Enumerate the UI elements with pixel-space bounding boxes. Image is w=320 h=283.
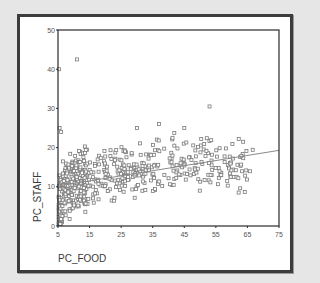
data-point: [228, 172, 231, 175]
data-point: [73, 186, 76, 189]
data-point: [158, 180, 161, 183]
data-point: [117, 178, 120, 181]
data-point: [93, 164, 96, 167]
data-point: [106, 190, 109, 193]
data-point: [150, 154, 153, 157]
data-point: [218, 147, 221, 150]
data-point: [192, 144, 195, 147]
data-point: [139, 142, 142, 145]
data-point: [98, 163, 101, 166]
data-point: [92, 201, 95, 204]
data-point: [172, 183, 175, 186]
data-point: [114, 186, 117, 189]
data-point: [209, 181, 212, 184]
x-tick-label: 65: [244, 231, 252, 238]
data-point: [141, 180, 144, 183]
data-point: [113, 159, 116, 162]
data-point: [157, 139, 160, 142]
y-axis-ticks: 01020304050: [47, 27, 58, 230]
data-point: [244, 174, 247, 177]
data-point: [72, 177, 75, 180]
data-point: [189, 174, 192, 177]
data-point: [63, 201, 66, 204]
data-point: [234, 169, 237, 172]
data-point: [131, 188, 134, 191]
data-point: [158, 150, 161, 153]
data-point: [190, 159, 193, 162]
data-point: [196, 146, 199, 149]
x-tick-label: 35: [149, 231, 157, 238]
data-point: [203, 143, 206, 146]
data-point: [83, 176, 86, 179]
data-point: [124, 185, 127, 188]
data-point: [172, 169, 175, 172]
data-point: [91, 176, 94, 179]
data-point: [91, 197, 94, 200]
data-point: [188, 168, 191, 171]
data-point: [204, 155, 207, 158]
data-point: [126, 171, 129, 174]
data-point: [145, 153, 148, 156]
data-point: [69, 152, 72, 155]
data-point: [105, 169, 108, 172]
data-point: [163, 147, 166, 150]
data-point: [84, 210, 87, 213]
data-point: [215, 149, 218, 152]
data-point: [223, 155, 226, 158]
data-point: [138, 174, 141, 177]
data-point: [121, 177, 124, 180]
y-tick-label: 40: [47, 66, 55, 73]
data-point: [176, 147, 179, 150]
data-point: [157, 163, 160, 166]
y-axis-title: PC_STAFF: [32, 172, 43, 222]
data-point: [168, 183, 171, 186]
data-point: [126, 175, 129, 178]
data-point: [152, 164, 155, 167]
data-point: [82, 159, 85, 162]
data-point: [153, 188, 156, 191]
data-point: [220, 174, 223, 177]
data-point: [152, 144, 155, 147]
data-point: [135, 127, 138, 130]
data-point: [68, 218, 71, 221]
data-point: [122, 190, 125, 193]
data-point: [133, 196, 136, 199]
data-point: [70, 180, 73, 183]
x-axis-title: PC_FOOD: [58, 253, 106, 264]
data-point: [75, 175, 78, 178]
data-point: [173, 131, 176, 134]
data-point: [243, 190, 246, 193]
data-point: [97, 170, 100, 173]
data-point: [218, 170, 221, 173]
data-point: [125, 156, 128, 159]
data-point: [200, 137, 203, 140]
data-point: [216, 183, 219, 186]
y-tick-label: 30: [47, 105, 55, 112]
data-point: [224, 147, 227, 150]
data-point: [89, 161, 92, 164]
x-tick-label: 75: [275, 231, 283, 238]
data-point: [59, 223, 62, 226]
data-point: [205, 137, 208, 140]
data-point: [175, 176, 178, 179]
data-point: [144, 189, 147, 192]
data-point: [83, 151, 86, 154]
data-point: [82, 186, 85, 189]
data-point: [229, 162, 232, 165]
data-point: [94, 189, 97, 192]
data-point: [66, 179, 69, 182]
data-point: [210, 139, 213, 142]
data-point: [129, 168, 132, 171]
data-point: [173, 144, 176, 147]
data-point: [99, 156, 102, 159]
data-point: [116, 165, 119, 168]
data-point: [205, 149, 208, 152]
data-point: [87, 184, 90, 187]
data-point: [120, 172, 123, 175]
data-point: [231, 142, 234, 145]
data-point: [123, 167, 126, 170]
data-point: [230, 169, 233, 172]
data-point: [96, 158, 99, 161]
data-point: [115, 149, 118, 152]
data-point: [217, 167, 220, 170]
